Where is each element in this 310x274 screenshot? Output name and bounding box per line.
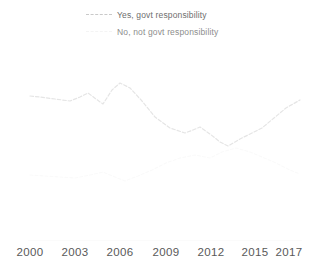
x-tick-2017: 2017 [276, 246, 303, 258]
x-tick-2015: 2015 [242, 246, 269, 258]
legend-label-yes: Yes, govt responsibility [117, 10, 207, 20]
plot-area [0, 52, 310, 230]
legend-line-swatch-yes-icon [86, 14, 112, 15]
chart-container: Yes, govt responsibility No, not govt re… [0, 0, 310, 274]
series-line-no [30, 148, 300, 181]
x-tick-2006: 2006 [107, 246, 134, 258]
x-tick-2009: 2009 [153, 246, 180, 258]
x-tick-2003: 2003 [62, 246, 89, 258]
x-axis-line [28, 240, 302, 241]
legend-label-no: No, not govt responsibility [117, 27, 218, 37]
series-line-yes [30, 83, 300, 146]
legend-item-no[interactable]: No, not govt responsibility [86, 23, 296, 40]
x-tick-2000: 2000 [17, 246, 44, 258]
chart-legend: Yes, govt responsibility No, not govt re… [86, 6, 296, 40]
x-axis: 2000 2003 2006 2009 2012 2015 2017 [0, 246, 310, 268]
x-tick-2012: 2012 [198, 246, 225, 258]
legend-item-yes[interactable]: Yes, govt responsibility [86, 6, 296, 23]
legend-line-swatch-no-icon [86, 31, 112, 32]
